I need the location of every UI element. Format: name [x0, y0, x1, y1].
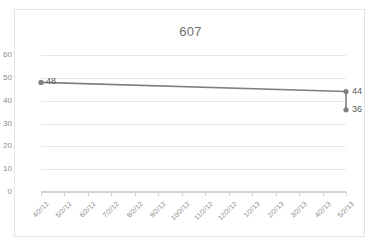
- x-axis-tick: [158, 192, 159, 196]
- x-axis-tick: [41, 192, 42, 196]
- x-axis-tick: [229, 192, 230, 196]
- x-axis-tick: [299, 192, 300, 196]
- y-axis-tick-label: 30: [0, 120, 12, 128]
- chart-title: 607: [15, 24, 366, 39]
- y-axis-tick-label: 40: [0, 97, 12, 105]
- x-axis-tick: [276, 192, 277, 196]
- x-axis-tick: [64, 192, 65, 196]
- y-axis-tick-label: 60: [0, 51, 12, 59]
- x-axis-tick: [88, 192, 89, 196]
- data-point-marker: [343, 107, 348, 112]
- plot-area: 0102030405060 4/2/125/2/126/2/127/2/128/…: [41, 55, 346, 192]
- x-axis-tick: [252, 192, 253, 196]
- x-axis-tick: [182, 192, 183, 196]
- x-axis-tick: [346, 192, 347, 196]
- series-group: [41, 55, 346, 192]
- x-axis-tick: [135, 192, 136, 196]
- data-point-label: 48: [46, 77, 56, 86]
- x-axis-tick: [323, 192, 324, 196]
- data-point-marker: [343, 89, 348, 94]
- y-axis-tick-label: 10: [0, 165, 12, 173]
- chart-container: 607 0102030405060 4/2/125/2/126/2/127/2/…: [14, 9, 365, 237]
- data-point-label: 44: [352, 87, 362, 96]
- y-axis-tick-label: 0: [0, 188, 12, 196]
- x-axis-tick: [205, 192, 206, 196]
- y-axis-tick-label: 50: [0, 74, 12, 82]
- data-point-marker: [38, 80, 43, 85]
- series-line: [41, 82, 346, 91]
- x-axis-tick: [111, 192, 112, 196]
- gridline: [41, 192, 346, 193]
- y-axis-tick-label: 20: [0, 142, 12, 150]
- data-point-label: 36: [352, 105, 362, 114]
